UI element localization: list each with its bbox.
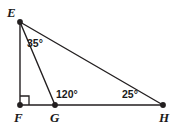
vertex-label-F: F <box>14 111 23 124</box>
angle-label-EHF: 25° <box>122 89 138 100</box>
vertex-dot-F <box>17 102 23 108</box>
angle-label-FEG: 35° <box>27 38 43 49</box>
vertex-label-G: G <box>50 111 59 124</box>
segment-EG <box>20 22 55 105</box>
geometry-figure: E F G H 35° 120° 25° <box>0 0 180 129</box>
vertex-dot-G <box>52 102 58 108</box>
vertex-dot-H <box>160 102 166 108</box>
vertex-label-H: H <box>159 111 169 124</box>
vertex-label-E: E <box>7 6 16 19</box>
segment-EH <box>20 22 163 105</box>
geometry-canvas <box>0 0 180 129</box>
angle-label-EGH: 120° <box>56 89 78 100</box>
vertex-dot-E <box>17 19 23 25</box>
